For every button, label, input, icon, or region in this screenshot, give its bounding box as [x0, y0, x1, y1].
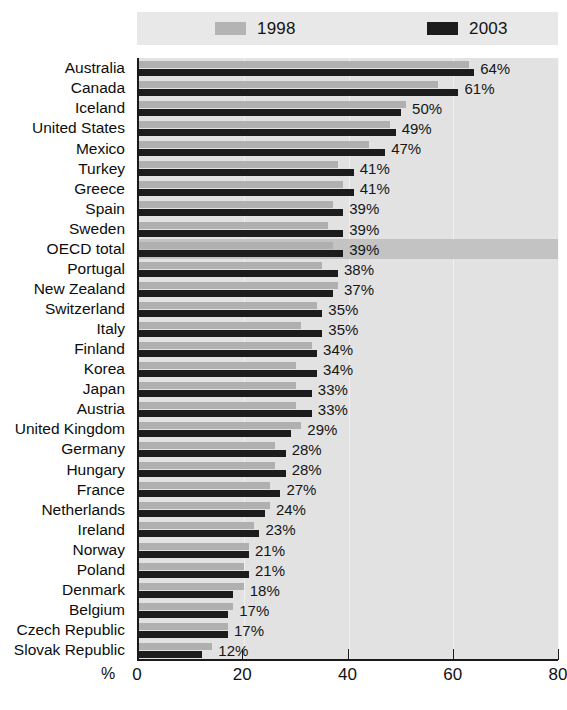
- category-label: Turkey: [0, 158, 131, 178]
- bar-1998: [139, 422, 301, 429]
- bar-1998: [139, 502, 270, 509]
- bar-rows: 64%61%50%49%47%41%41%39%39%39%38%37%35%3…: [139, 58, 558, 660]
- category-label: Austria: [0, 399, 131, 419]
- bar-1998: [139, 643, 212, 650]
- category-label: Denmark: [0, 580, 131, 600]
- bar-value-label: 41%: [360, 181, 390, 196]
- bar-1998: [139, 81, 438, 88]
- bar-2003: [139, 270, 338, 277]
- bar-2003: [139, 69, 474, 76]
- bar-1998: [139, 603, 233, 610]
- bar-value-label: 49%: [402, 121, 432, 136]
- category-label: Greece: [0, 178, 131, 198]
- bar-row: 39%: [139, 239, 558, 259]
- bar-value-label: 17%: [234, 622, 264, 637]
- bar-2003: [139, 490, 280, 497]
- bar-row: 49%: [139, 118, 558, 138]
- legend-label-2003: 2003: [469, 19, 508, 39]
- category-label: Portugal: [0, 259, 131, 279]
- bar-row: 27%: [139, 479, 558, 499]
- category-label: Finland: [0, 339, 131, 359]
- bar-row: 35%: [139, 319, 558, 339]
- x-axis-tick-label: 0: [132, 666, 141, 683]
- bar-value-label: 34%: [323, 341, 353, 356]
- bar-row: 17%: [139, 620, 558, 640]
- bar-value-label: 28%: [292, 442, 322, 457]
- bar-row: 29%: [139, 419, 558, 439]
- bar-1998: [139, 121, 390, 128]
- bar-1998: [139, 522, 254, 529]
- bar-2003: [139, 330, 322, 337]
- bar-2003: [139, 611, 228, 618]
- category-label: Spain: [0, 198, 131, 218]
- bar-value-label: 23%: [265, 522, 295, 537]
- bar-2003: [139, 169, 354, 176]
- bar-2003: [139, 89, 458, 96]
- bar-row: 17%: [139, 600, 558, 620]
- bar-value-label: 21%: [255, 562, 285, 577]
- bar-row: 18%: [139, 580, 558, 600]
- bar-row: 61%: [139, 78, 558, 98]
- category-label: Slovak Republic: [0, 640, 131, 660]
- category-label: Netherlands: [0, 499, 131, 519]
- category-label: Korea: [0, 359, 131, 379]
- bar-2003: [139, 370, 317, 377]
- bar-value-label: 35%: [328, 301, 358, 316]
- bar-2003: [139, 390, 312, 397]
- bar-row: 41%: [139, 178, 558, 198]
- bar-value-label: 27%: [286, 482, 316, 497]
- bar-row: 41%: [139, 158, 558, 178]
- bar-row: 39%: [139, 219, 558, 239]
- bar-value-label: 12%: [218, 642, 248, 657]
- bar-1998: [139, 222, 328, 229]
- x-axis-tick: [137, 649, 138, 660]
- bar-value-label: 41%: [360, 161, 390, 176]
- bar-value-label: 35%: [328, 321, 358, 336]
- bar-2003: [139, 430, 291, 437]
- bar-2003: [139, 310, 322, 317]
- bar-row: 28%: [139, 459, 558, 479]
- bar-row: 39%: [139, 198, 558, 218]
- bar-1998: [139, 402, 296, 409]
- bar-value-label: 39%: [349, 201, 379, 216]
- bar-row: 28%: [139, 439, 558, 459]
- bar-value-label: 33%: [318, 382, 348, 397]
- bar-value-label: 28%: [292, 462, 322, 477]
- bar-2003: [139, 470, 286, 477]
- x-axis-tick: [242, 649, 243, 660]
- bar-2003: [139, 250, 343, 257]
- bar-value-label: 64%: [480, 61, 510, 76]
- bar-1998: [139, 482, 270, 489]
- bar-2003: [139, 149, 385, 156]
- bar-2003: [139, 510, 265, 517]
- bar-row: 34%: [139, 359, 558, 379]
- category-label: Italy: [0, 319, 131, 339]
- bar-value-label: 39%: [349, 221, 379, 236]
- bar-2003: [139, 109, 401, 116]
- bar-row: 23%: [139, 519, 558, 539]
- bar-row: 38%: [139, 259, 558, 279]
- bar-value-label: 37%: [344, 281, 374, 296]
- category-label: Mexico: [0, 138, 131, 158]
- x-axis-tick: [453, 649, 454, 660]
- bar-value-label: 33%: [318, 402, 348, 417]
- x-axis-unit-label: %: [101, 666, 115, 682]
- bar-value-label: 34%: [323, 361, 353, 376]
- bar-row: 21%: [139, 540, 558, 560]
- category-label: Iceland: [0, 98, 131, 118]
- category-label: Hungary: [0, 459, 131, 479]
- x-axis-tick: [558, 649, 559, 660]
- bar-1998: [139, 462, 275, 469]
- category-label: Switzerland: [0, 299, 131, 319]
- category-label: New Zealand: [0, 279, 131, 299]
- legend-entry-2003: 2003: [427, 12, 508, 45]
- x-axis-tick-label: 60: [443, 666, 462, 683]
- bar-2003: [139, 571, 249, 578]
- plot-area: 64%61%50%49%47%41%41%39%39%39%38%37%35%3…: [137, 58, 558, 660]
- legend-swatch-1998-icon: [215, 22, 246, 35]
- bar-1998: [139, 101, 406, 108]
- bar-2003: [139, 631, 228, 638]
- bar-2003: [139, 551, 249, 558]
- category-label: Norway: [0, 540, 131, 560]
